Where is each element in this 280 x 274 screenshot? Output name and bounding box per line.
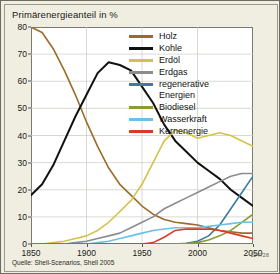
- page-title: Primärenergieanteil in %: [12, 9, 118, 20]
- x-axis-tick-label: 1850: [22, 248, 41, 258]
- legend-item-label: Erdgas: [159, 67, 188, 78]
- legend-item-label: Holz: [159, 31, 177, 42]
- legend-item: Erdöl: [129, 55, 247, 66]
- legend-color-swatch: [129, 59, 153, 62]
- source-note: Quelle: Shell-Scenarios, Shell 2005: [12, 259, 114, 266]
- chart-legend: HolzKohleErdölErdgasregenerative Energie…: [129, 29, 247, 140]
- y-axis-tick: [28, 108, 31, 109]
- legend-item-label: Wasserkraft: [159, 114, 207, 125]
- legend-color-swatch: [129, 83, 153, 86]
- y-axis-tick: [28, 189, 31, 190]
- y-axis-tick-label: 10: [5, 212, 27, 222]
- x-axis-tick-label: 1900: [77, 248, 96, 258]
- y-axis-tick-label: 40: [5, 131, 27, 141]
- y-axis-tick: [28, 54, 31, 55]
- x-axis-tick: [198, 244, 199, 247]
- x-axis-tick: [253, 244, 254, 247]
- y-axis-tick-label: 70: [5, 49, 27, 59]
- y-axis-tick: [28, 27, 31, 28]
- legend-item: regenerative Energien: [129, 79, 247, 101]
- y-axis-tick-label: 80: [5, 22, 27, 32]
- legend-item: Biodiesel: [129, 102, 247, 113]
- y-axis-tick: [28, 135, 31, 136]
- legend-item-label: Biodiesel: [159, 102, 196, 113]
- y-axis-tick: [28, 162, 31, 163]
- legend-item: Wasserkraft: [129, 114, 247, 125]
- legend-item: Erdgas: [129, 67, 247, 78]
- x-axis-tick: [87, 244, 88, 247]
- legend-color-swatch: [129, 47, 153, 50]
- legend-color-swatch: [129, 35, 153, 38]
- y-axis-tick: [28, 81, 31, 82]
- legend-item-label: regenerative Energien: [159, 79, 209, 101]
- x-axis-tick: [142, 244, 143, 247]
- legend-item: Kohle: [129, 43, 247, 54]
- figure-id-label: 124728: [251, 252, 270, 258]
- legend-color-swatch: [129, 106, 153, 109]
- legend-color-swatch: [129, 71, 153, 74]
- chart-figure: Primärenergieanteil in % 010203040506070…: [0, 0, 280, 274]
- legend-item: Kernenergie: [129, 126, 247, 137]
- y-axis-tick-label: 20: [5, 185, 27, 195]
- y-axis-tick-label: 50: [5, 103, 27, 113]
- y-axis-tick: [28, 216, 31, 217]
- y-axis-tick-label: 60: [5, 76, 27, 86]
- x-axis-tick-label: 2000: [188, 248, 207, 258]
- x-axis-tick-label: 1950: [133, 248, 152, 258]
- legend-color-swatch: [129, 130, 153, 133]
- legend-item-label: Kernenergie: [159, 126, 208, 137]
- legend-item: Holz: [129, 31, 247, 42]
- legend-item-label: Kohle: [159, 43, 182, 54]
- legend-color-swatch: [129, 118, 153, 121]
- legend-item-label: Erdöl: [159, 55, 180, 66]
- y-axis-tick-label: 30: [5, 158, 27, 168]
- x-axis-tick: [31, 244, 32, 247]
